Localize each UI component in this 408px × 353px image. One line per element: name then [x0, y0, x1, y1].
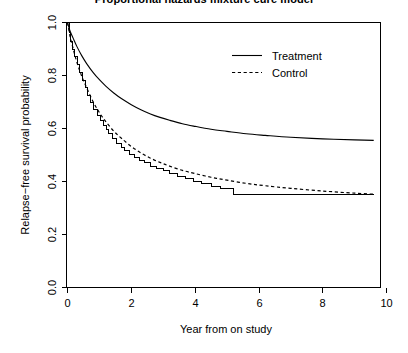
chart-canvas: Proportional hazards mixture cure model … — [0, 0, 408, 353]
x-tick-label-0: 0 — [64, 297, 70, 309]
control-km-step-curve — [68, 23, 374, 195]
x-tick-label-10: 10 — [380, 297, 392, 309]
survival-plot: 1.0 0.8 0.6 0.4 0.2 0.0 Relapse−free sur… — [0, 0, 408, 353]
y-tick-label-02: 0.2 — [46, 227, 58, 242]
data-curves — [68, 23, 374, 195]
y-axis-ticks — [62, 23, 67, 288]
x-tick-label-4: 4 — [192, 297, 198, 309]
legend: Treatment Control — [232, 50, 322, 79]
legend-label-control: Control — [272, 67, 307, 79]
x-axis-ticks — [68, 288, 387, 293]
y-tick-label-1: 1.0 — [46, 15, 58, 30]
x-tick-label-2: 2 — [128, 297, 134, 309]
y-tick-label-06: 0.6 — [46, 121, 58, 136]
x-axis-title: Year from on study — [180, 323, 272, 335]
x-axis-tick-labels: 0 2 4 6 8 10 — [64, 297, 392, 309]
y-tick-label-00: 0.0 — [46, 280, 58, 295]
control-curve — [68, 23, 374, 195]
legend-label-treatment: Treatment — [272, 50, 322, 62]
y-axis-title: Relapse−free survival probability — [19, 75, 31, 235]
x-tick-label-6: 6 — [256, 297, 262, 309]
treatment-curve — [68, 23, 374, 141]
x-tick-label-8: 8 — [319, 297, 325, 309]
plot-frame — [67, 23, 381, 288]
y-tick-label-04: 0.4 — [46, 174, 58, 189]
y-axis-tick-labels: 1.0 0.8 0.6 0.4 0.2 0.0 — [46, 15, 58, 295]
y-tick-label-08: 0.8 — [46, 68, 58, 83]
